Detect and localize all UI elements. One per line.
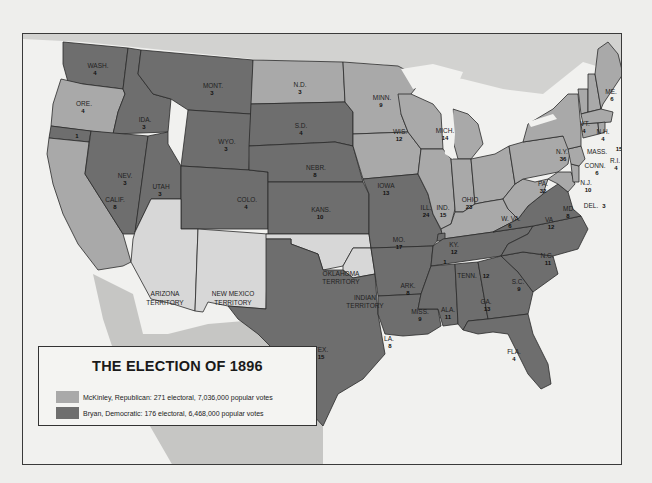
svg-text:MONT.: MONT.: [203, 82, 223, 89]
svg-text:N.C.: N.C.: [541, 252, 554, 259]
svg-text:IND.: IND.: [437, 204, 450, 211]
svg-text:24: 24: [423, 212, 430, 218]
svg-text:ORE.: ORE.: [76, 100, 92, 107]
svg-text:TERRITORY: TERRITORY: [146, 299, 184, 306]
state-iowa[interactable]: [353, 132, 421, 179]
legend-item-republican: McKinley, Republican: 271 electoral, 7,0…: [56, 391, 273, 403]
svg-text:PA.: PA.: [538, 180, 548, 187]
svg-text:12: 12: [451, 249, 458, 255]
svg-text:32: 32: [540, 188, 547, 194]
svg-text:ILL.: ILL.: [421, 204, 432, 211]
svg-text:S.C.: S.C.: [512, 278, 525, 285]
svg-text:15: 15: [318, 354, 325, 360]
svg-text:10: 10: [585, 187, 592, 193]
svg-text:13: 13: [383, 190, 390, 196]
legend-label-democratic: Bryan, Democratic: 176 electoral, 6,468,…: [83, 410, 264, 417]
svg-text:11: 11: [445, 314, 452, 320]
map-title: THE ELECTION OF 1896: [39, 358, 316, 374]
svg-text:MINN.: MINN.: [373, 94, 392, 101]
svg-text:GA.: GA.: [480, 298, 491, 305]
legend-label-republican: McKinley, Republican: 271 electoral, 7,0…: [83, 394, 273, 401]
svg-text:FLA.: FLA.: [507, 348, 521, 355]
svg-text:ALA.: ALA.: [441, 306, 455, 313]
svg-text:MASS.: MASS.: [587, 148, 607, 155]
map-legend: THE ELECTION OF 1896 McKinley, Republica…: [38, 346, 317, 426]
svg-text:CONN.: CONN.: [585, 162, 606, 169]
svg-text:14: 14: [442, 135, 449, 141]
svg-text:WYO.: WYO.: [218, 138, 236, 145]
svg-text:NEBR.: NEBR.: [306, 164, 326, 171]
svg-text:TERRITORY: TERRITORY: [322, 278, 360, 285]
page: WASH. 4 ORE. 4 CALIF. 8 1 IDA. 3 NEV. 3 …: [0, 0, 652, 483]
svg-text:KY.: KY.: [449, 241, 459, 248]
svg-text:12: 12: [483, 273, 490, 279]
svg-text:MD.: MD.: [563, 205, 575, 212]
svg-text:ME.: ME.: [605, 88, 617, 95]
svg-text:17: 17: [396, 244, 403, 250]
democratic-swatch: [56, 407, 79, 419]
svg-text:INDIAN: INDIAN: [354, 294, 376, 301]
svg-text:S.D.: S.D.: [295, 122, 308, 129]
svg-text:VA.: VA.: [545, 216, 555, 223]
svg-text:ARK.: ARK.: [400, 282, 415, 289]
svg-text:IDA.: IDA.: [139, 116, 152, 123]
svg-text:NEV.: NEV.: [118, 172, 133, 179]
svg-text:WIS.: WIS.: [393, 128, 407, 135]
svg-text:MO.: MO.: [393, 236, 405, 243]
svg-text:10: 10: [317, 214, 324, 220]
republican-swatch: [56, 391, 79, 403]
svg-text:IOWA: IOWA: [377, 182, 395, 189]
legend-item-democratic: Bryan, Democratic: 176 electoral, 6,468,…: [56, 407, 264, 419]
svg-text:N.D.: N.D.: [294, 81, 307, 88]
svg-text:15: 15: [440, 212, 447, 218]
svg-text:CALIF.: CALIF.: [105, 196, 125, 203]
svg-text:COLO.: COLO.: [237, 196, 257, 203]
svg-text:N.J.: N.J.: [580, 179, 592, 186]
svg-text:TENN.: TENN.: [457, 272, 477, 279]
svg-text:VT.: VT.: [580, 120, 590, 127]
svg-text:OKLAHOMA: OKLAHOMA: [323, 270, 361, 277]
svg-text:KANS.: KANS.: [311, 206, 331, 213]
svg-text:12: 12: [548, 224, 555, 230]
svg-text:LA.: LA.: [384, 335, 394, 342]
state-wyoming[interactable]: [181, 110, 251, 170]
svg-text:N.Y.: N.Y.: [556, 148, 568, 155]
svg-text:15: 15: [616, 146, 622, 152]
svg-text:R.I.: R.I.: [610, 157, 620, 164]
svg-text:23: 23: [466, 204, 473, 210]
svg-text:NEW MEXICO: NEW MEXICO: [212, 290, 255, 297]
svg-text:W. VA.: W. VA.: [501, 215, 521, 222]
svg-text:12: 12: [396, 136, 403, 142]
svg-text:36: 36: [560, 156, 567, 162]
label-wash: WASH.: [87, 62, 108, 69]
svg-text:ARIZONA: ARIZONA: [151, 290, 181, 297]
svg-text:13: 13: [484, 306, 491, 312]
svg-text:MISS.: MISS.: [411, 308, 429, 315]
map-frame: WASH. 4 ORE. 4 CALIF. 8 1 IDA. 3 NEV. 3 …: [22, 33, 622, 465]
svg-text:11: 11: [545, 260, 552, 266]
svg-text:N.H.: N.H.: [597, 128, 610, 135]
svg-text:OHIO: OHIO: [462, 196, 479, 203]
svg-text:MICH.: MICH.: [436, 127, 455, 134]
svg-text:UTAH: UTAH: [152, 183, 170, 190]
svg-text:DEL.: DEL.: [584, 202, 599, 209]
svg-text:TERRITORY: TERRITORY: [346, 302, 384, 309]
svg-text:TERRITORY: TERRITORY: [214, 299, 252, 306]
